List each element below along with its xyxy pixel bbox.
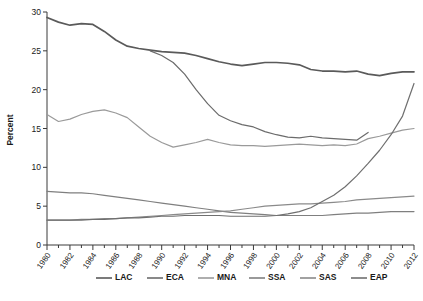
x-tick-label: 1998	[241, 251, 259, 271]
y-axis: 051015202530	[32, 7, 47, 250]
figure-caption	[6, 292, 306, 300]
y-tick-label: 10	[32, 162, 42, 172]
x-tick-label: 1990	[150, 251, 168, 271]
x-tick-label: 1986	[104, 251, 122, 271]
series-line-mna	[47, 110, 414, 147]
y-tick-label: 20	[32, 85, 42, 95]
series-line-lac	[47, 17, 414, 75]
x-tick-label: 2012	[402, 251, 420, 271]
x-tick-label: 2006	[333, 251, 351, 271]
y-tick-label: 5	[36, 201, 41, 211]
x-tick-label: 1982	[58, 251, 76, 271]
x-tick-label: 2004	[310, 251, 328, 271]
legend-label-mna: MNA	[217, 272, 236, 282]
x-tick-label: 1984	[81, 251, 99, 271]
x-axis: 1980198219841986198819901992199419961998…	[35, 245, 420, 271]
y-tick-label: 30	[32, 7, 42, 17]
y-tick-label: 25	[32, 46, 42, 56]
series-line-eca	[150, 51, 368, 140]
x-tick-label: 2010	[379, 251, 397, 271]
x-tick-label: 2000	[264, 251, 282, 271]
x-tick-label: 1996	[219, 251, 237, 271]
x-tick-label: 1988	[127, 251, 145, 271]
series-group	[47, 17, 414, 220]
line-chart: 051015202530 198019821984198619881990199…	[0, 0, 423, 301]
x-tick-label: 1992	[173, 251, 191, 271]
legend-label-lac: LAC	[115, 272, 132, 282]
y-axis-title: Percent	[5, 114, 15, 145]
x-tick-label: 2008	[356, 251, 374, 271]
legend-label-eap: EAP	[370, 272, 388, 282]
x-tick-label: 1994	[196, 251, 214, 271]
y-tick-label: 0	[36, 240, 41, 250]
y-tick-label: 15	[32, 124, 42, 134]
series-line-ssa	[47, 191, 414, 215]
legend-label-sas: SAS	[319, 272, 337, 282]
chart-figure: 051015202530 198019821984198619881990199…	[0, 0, 423, 301]
x-tick-label: 2002	[287, 251, 305, 271]
chart-legend: LACECAMNASSASASEAP	[96, 272, 388, 282]
legend-label-ssa: SSA	[268, 272, 285, 282]
x-tick-label: 1980	[35, 251, 53, 271]
legend-label-eca: ECA	[166, 272, 184, 282]
